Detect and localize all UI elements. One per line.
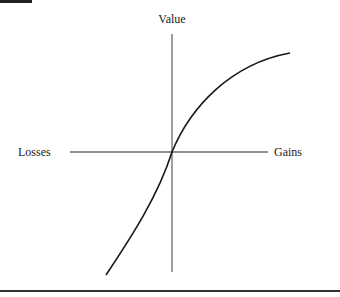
bottom-rule-divider xyxy=(0,290,340,292)
value-function-curve xyxy=(106,53,290,275)
x-axis-label-gains: Gains xyxy=(274,145,302,159)
x-axis-label-losses: Losses xyxy=(18,145,51,159)
y-axis-label-value: Value xyxy=(150,12,194,26)
